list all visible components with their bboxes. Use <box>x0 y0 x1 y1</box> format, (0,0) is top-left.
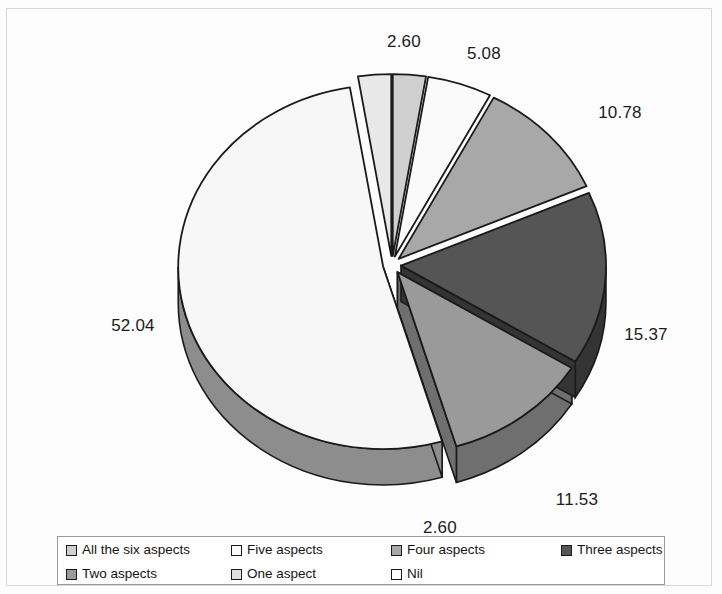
legend-item[interactable]: Nil <box>391 562 561 586</box>
legend-label: Nil <box>407 567 423 581</box>
legend-swatch-icon <box>391 569 402 580</box>
legend-label: Three aspects <box>577 543 663 557</box>
legend-grid: All the six aspectsFive aspectsFour aspe… <box>58 537 664 586</box>
pie-data-label: 5.08 <box>467 44 501 63</box>
legend-label: Two aspects <box>82 567 157 581</box>
pie-data-label: 10.78 <box>598 103 642 122</box>
chart-page: 2.605.0810.7815.3711.532.6052.04 All the… <box>0 0 722 594</box>
legend-item[interactable]: All the six aspects <box>66 538 231 562</box>
legend-swatch-icon <box>66 545 77 556</box>
legend-swatch-icon <box>561 545 572 556</box>
legend-swatch-icon <box>231 569 242 580</box>
pie-chart: 2.605.0810.7815.3711.532.6052.04 <box>0 0 722 594</box>
pie-data-label: 11.53 <box>556 490 598 509</box>
legend-label: All the six aspects <box>82 543 190 557</box>
legend-item[interactable]: Two aspects <box>66 562 231 586</box>
pie-chart-svg: 2.605.0810.7815.3711.532.6052.04 <box>0 0 722 594</box>
legend-item[interactable]: Four aspects <box>391 538 561 562</box>
legend-swatch-icon <box>66 569 77 580</box>
pie-data-label: 2.60 <box>387 32 421 51</box>
pie-slice-tops <box>178 74 606 449</box>
pie-data-label: 2.60 <box>423 518 457 537</box>
pie-data-label: 15.37 <box>624 325 668 344</box>
legend-swatch-icon <box>231 545 242 556</box>
legend-item[interactable]: Five aspects <box>231 538 391 562</box>
legend-item[interactable]: Three aspects <box>561 538 721 562</box>
legend-item[interactable]: One aspect <box>231 562 391 586</box>
pie-data-label: 52.04 <box>111 316 155 335</box>
chart-legend: All the six aspectsFive aspectsFour aspe… <box>57 536 665 585</box>
legend-label: Four aspects <box>407 543 485 557</box>
legend-label: One aspect <box>247 567 316 581</box>
legend-swatch-icon <box>391 545 402 556</box>
legend-label: Five aspects <box>247 543 323 557</box>
